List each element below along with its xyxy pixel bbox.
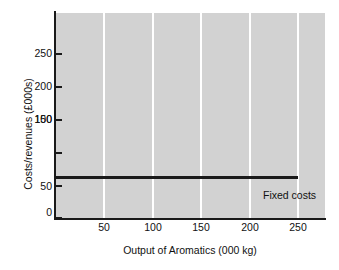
x-axis-tick-label: 200	[230, 221, 270, 233]
y-axis-tick	[56, 217, 62, 219]
x-axis-line	[54, 218, 326, 220]
y-axis-tick	[56, 185, 62, 187]
gridline-vertical	[249, 13, 251, 218]
y-axis-title: Costs/revenues (£000s)	[22, 44, 34, 224]
x-axis-title: Output of Aromatics (000 kg)	[55, 244, 325, 256]
series-line-fixed-costs	[55, 176, 298, 179]
gridline-vertical	[200, 13, 202, 218]
y-axis-tick	[56, 86, 62, 88]
series-annotation-fixed-costs: Fixed costs	[263, 189, 316, 201]
gridline-vertical	[297, 13, 299, 218]
y-axis-tick	[56, 53, 62, 55]
y-axis-line	[54, 11, 56, 220]
chart-figure: 0 50 100 150 200 250 50 100 150 200 250 …	[0, 0, 339, 270]
plot-area	[55, 13, 325, 218]
gridline-vertical	[152, 13, 154, 218]
y-axis-tick	[56, 119, 62, 121]
gridline-vertical	[103, 13, 105, 218]
x-axis-tick-label: 150	[181, 221, 221, 233]
x-axis-tick-label: 50	[84, 221, 124, 233]
x-axis-tick-label: 100	[133, 221, 173, 233]
x-axis-tick-label: 250	[278, 221, 318, 233]
y-axis-tick	[56, 152, 62, 154]
